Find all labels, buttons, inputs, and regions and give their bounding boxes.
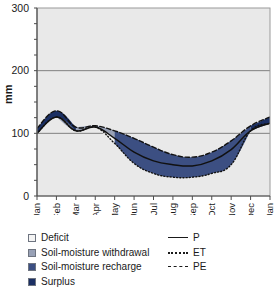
legend-label: ET [193, 248, 206, 258]
x-tick-label: Nov [226, 203, 237, 215]
y-tick-label: 300 [11, 2, 29, 14]
legend-line-icon [168, 263, 188, 271]
y-axis-label: mm [2, 84, 14, 104]
x-tick-label: Mar [70, 203, 81, 215]
legend-label: P [193, 233, 200, 243]
x-tick-label: Dec [245, 203, 256, 215]
x-tick-label: Apr [90, 203, 101, 215]
legend-swatch-column: DeficitSoil-moisture withdrawalSoil-mois… [28, 231, 156, 289]
legend-swatch-icon [28, 263, 36, 271]
x-tick-label: May [109, 203, 120, 215]
legend-label: Surplus [41, 277, 75, 287]
legend-label: Soil-moisture withdrawal [41, 248, 149, 258]
x-tick-label: Sep [187, 203, 198, 215]
x-tick-label: Jan [31, 203, 42, 215]
legend-line-column: PETPE [156, 231, 278, 275]
x-tick-label: Feb [51, 203, 62, 215]
legend-item-soil-moisture-withdrawal: Soil-moisture withdrawal [28, 246, 156, 261]
water-balance-chart: 0100200300 JanFebMarAprMayJunJulAugSepOc… [0, 0, 278, 300]
legend-label: Deficit [41, 233, 69, 243]
legend-label: PE [193, 262, 206, 272]
x-tick-label: Jul [148, 203, 159, 215]
legend-item-deficit: Deficit [28, 231, 156, 246]
legend-swatch-icon [28, 249, 36, 257]
legend: DeficitSoil-moisture withdrawalSoil-mois… [28, 231, 278, 289]
plot-area: 0100200300 JanFebMarAprMayJunJulAugSepOc… [0, 0, 278, 215]
x-axis: JanFebMarAprMayJunJulAugSepOctNovDecJan [31, 196, 275, 215]
y-tick-label: 0 [23, 190, 29, 202]
x-tick-label: Aug [167, 203, 178, 215]
legend-item-surplus: Surplus [28, 275, 156, 290]
chart-svg: 0100200300 JanFebMarAprMayJunJulAugSepOc… [0, 0, 278, 215]
y-axis: 0100200300 [11, 2, 37, 202]
legend-item-pe: PE [168, 260, 278, 275]
legend-line-icon [168, 234, 188, 242]
y-tick-label: 100 [11, 127, 29, 139]
legend-label: Soil-moisture recharge [41, 262, 142, 272]
x-tick-label: Jan [264, 203, 275, 215]
legend-item-soil-moisture-recharge: Soil-moisture recharge [28, 260, 156, 275]
x-tick-label: Oct [206, 203, 217, 215]
legend-swatch-icon [28, 234, 36, 242]
legend-line-icon [168, 249, 188, 257]
legend-swatch-icon [28, 278, 36, 286]
legend-item-p: P [168, 231, 278, 246]
y-tick-label: 200 [11, 64, 29, 76]
x-tick-label: Jun [128, 203, 139, 215]
legend-item-et: ET [168, 246, 278, 261]
